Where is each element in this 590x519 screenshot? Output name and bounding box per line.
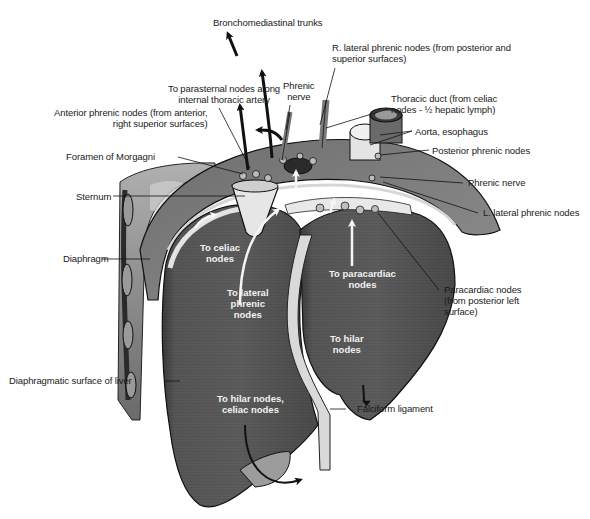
label-to-hilar-celiac-nodes: To hilar nodes, celiac nodes xyxy=(217,393,284,415)
label-line: To paracardiac xyxy=(329,268,396,279)
label-falciform-ligament: Falciform ligament xyxy=(357,403,433,414)
label-to-lateral-phrenic-nodes: To lateral phrenic nodes xyxy=(227,287,269,320)
label-bronchomediastinal-trunks: Bronchomediastinal trunks xyxy=(213,17,322,28)
label-parasternal-nodes: To parasternal nodes along internal thor… xyxy=(168,83,280,105)
label-line: (from posterior left xyxy=(444,295,522,306)
label-line: superior surfaces) xyxy=(332,53,511,64)
label-foramen-of-morgagni: Foramen of Morgagni xyxy=(66,151,155,162)
label-line: nerve xyxy=(283,91,315,102)
label-phrenic-nerve-right: Phrenic nerve xyxy=(468,177,525,188)
label-line: nodes xyxy=(330,344,364,355)
label-line: Phrenic xyxy=(283,80,315,91)
label-line: phrenic xyxy=(227,298,269,309)
label-line: internal thoracic artery xyxy=(168,94,280,105)
label-line: nodes xyxy=(329,279,396,290)
label-to-celiac-nodes: To celiac nodes xyxy=(200,242,240,264)
label-thoracic-duct: Thoracic duct (from celiac nodes - ½ hep… xyxy=(391,93,497,115)
label-to-paracardiac-nodes: To paracardiac nodes xyxy=(329,268,396,290)
label-line: Thoracic duct (from celiac xyxy=(391,93,497,104)
label-line: To lateral xyxy=(227,287,269,298)
label-posterior-phrenic-nodes: Posterior phrenic nodes xyxy=(432,145,530,156)
label-anterior-phrenic-nodes: Anterior phrenic nodes (from anterior, r… xyxy=(54,107,208,129)
label-phrenic-nerve-top: Phrenic nerve xyxy=(283,80,315,102)
label-paracardiac-nodes: Paracardiac nodes (from posterior left s… xyxy=(444,284,522,317)
label-line: To hilar nodes, xyxy=(217,393,284,404)
label-diaphragm: Diaphragm xyxy=(63,253,109,264)
label-line: To hilar xyxy=(330,333,364,344)
label-line: nodes xyxy=(200,253,240,264)
label-to-hilar-nodes: To hilar nodes xyxy=(330,333,364,355)
label-line: To parasternal nodes along xyxy=(168,83,280,94)
label-line: Paracardiac nodes xyxy=(444,284,522,295)
label-diaphragmatic-surface-of-liver: Diaphragmatic surface of liver xyxy=(9,375,132,386)
label-sternum: Sternum xyxy=(76,191,111,202)
label-line: nodes xyxy=(227,309,269,320)
label-line: Anterior phrenic nodes (from anterior, xyxy=(54,107,208,118)
label-line: To celiac xyxy=(200,242,240,253)
label-l-lateral-phrenic-nodes: L. lateral phrenic nodes xyxy=(483,207,579,218)
label-line: R. lateral phrenic nodes (from posterior… xyxy=(332,42,511,53)
label-line: nodes - ½ hepatic lymph) xyxy=(391,104,497,115)
label-line: celiac nodes xyxy=(217,404,284,415)
label-aorta-esophagus: Aorta, esophagus xyxy=(415,126,488,137)
label-line: right superior surfaces) xyxy=(54,118,208,129)
label-line: surface) xyxy=(444,306,522,317)
label-r-lateral-phrenic-nodes: R. lateral phrenic nodes (from posterior… xyxy=(332,42,511,64)
